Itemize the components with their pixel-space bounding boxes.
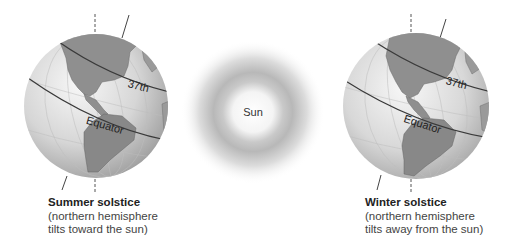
caption-line: tilts toward the sun) (48, 223, 158, 237)
caption-line: (northern hemisphere (48, 210, 158, 224)
globe-summer: 37th Equator (20, 14, 172, 192)
caption-line: tilts away from the sun) (365, 223, 483, 237)
globe-winter: 37th Equator (340, 14, 492, 192)
caption-winter-solstice: Winter solstice (northern hemisphere til… (365, 196, 483, 237)
earth-axis-top (122, 15, 129, 38)
earth-axis-top (440, 19, 446, 38)
earth-axis-bottom (377, 175, 381, 190)
caption-line: (northern hemisphere (365, 210, 483, 224)
earth-axis-bottom (62, 176, 67, 190)
caption-title: Winter solstice (365, 196, 483, 210)
caption-title: Summer solstice (48, 196, 158, 210)
sun-label: Sun (243, 106, 263, 118)
sun: Sun (181, 40, 325, 184)
caption-summer-solstice: Summer solstice (northern hemisphere til… (48, 196, 158, 237)
